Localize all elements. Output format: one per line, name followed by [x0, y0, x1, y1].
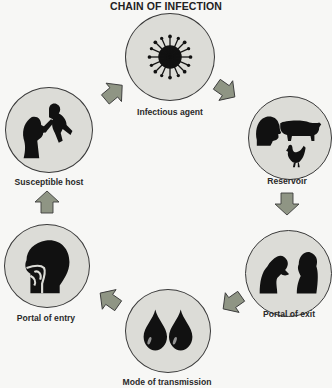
coughing-people-icon — [246, 231, 331, 316]
infectious-agent-label: Infectious agent — [137, 107, 203, 117]
mother-baby-icon — [6, 88, 92, 172]
arrow-entry-to-host — [35, 191, 59, 213]
mode-of-transmission-label: Mode of transmission — [123, 377, 212, 387]
portal-of-entry-circle — [4, 224, 90, 308]
susceptible-host-circle — [5, 87, 93, 173]
infectious-agent-circle — [125, 13, 215, 101]
reservoir-label: Reservoir — [267, 176, 307, 186]
mode-of-transmission-circle — [125, 289, 211, 373]
arrow-reservoir-to-exit — [275, 193, 299, 215]
arrow-exit-to-mode — [216, 286, 248, 318]
droplets-icon — [126, 290, 210, 372]
portal-of-entry-label: Portal of entry — [17, 313, 75, 323]
head-airway-icon — [5, 225, 89, 307]
susceptible-host-label: Susceptible host — [15, 177, 84, 187]
virus-icon — [126, 14, 214, 100]
arrow-mode-to-entry — [93, 283, 125, 315]
human-pig-chicken-icon — [249, 97, 331, 179]
portal-of-exit-circle — [245, 230, 332, 317]
arrow-agent-to-reservoir — [210, 74, 242, 106]
reservoir-circle — [248, 96, 332, 180]
portal-of-exit-label: Portal of exit — [263, 309, 315, 319]
